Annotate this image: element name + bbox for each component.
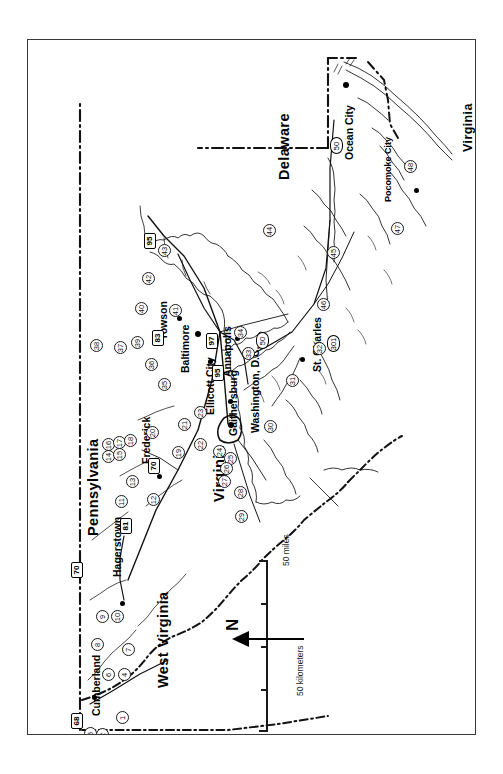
county-circle-5: 5 [84,727,97,734]
creek-e [258,272,270,284]
creek-n [358,330,366,344]
md-va-potomac-border [348,436,402,482]
city-label-ocean-city: Ocean City [344,105,355,160]
county-circle-46: 46 [317,298,330,311]
city-dot-gaithersburg [228,399,233,404]
county-circle-41: 41 [169,304,182,317]
calvert-shore-b [300,380,322,414]
city-dot-towson [177,316,182,321]
city-label-cumberland: Cumberland [91,655,102,716]
county-circle-38: 38 [90,339,103,352]
i83-corridor [178,254,220,332]
county-circle-39: 39 [131,336,144,349]
interstate-shield-70-frederick: 70 [148,458,160,474]
county-circle-36: 36 [145,358,158,371]
atlantic-coastline [344,62,452,154]
interstate-shield-68-number: 68 [73,717,81,726]
county-circle-33: 33 [242,347,255,360]
map-frame: Pennsylvania West Virginia Virginia Dela… [27,39,476,735]
barrier-island [346,70,452,160]
interstate-shield-97: 97 [206,333,218,349]
county-circle-6: 6 [102,668,115,681]
city-dot-ellicott-city [208,359,213,364]
county-circle-29: 29 [235,510,248,523]
inland-bay [358,98,388,120]
us-route-oval-50-bay-bridge-number: 50 [259,336,267,344]
county-circle-23: 23 [194,406,207,419]
interstate-shield-97-number: 97 [208,337,216,346]
county-circle-20: 20 [146,426,159,439]
county-circle-34: 34 [234,326,247,339]
north-arrow-label: N [224,619,241,631]
county-circle-47: 47 [391,222,404,235]
north-arrow-head [232,631,249,647]
state-label-virginia-eastern-shore: Virginia [462,103,475,152]
county-circle-27: 27 [218,475,231,488]
interstate-shield-70-frederick-number: 70 [150,462,158,471]
creek-f [276,290,284,304]
creek-k [368,236,376,250]
county-circle-21: 21 [178,418,191,431]
city-label-washington-dc: Washington, D.C. [250,346,261,433]
map-canvas: Pennsylvania West Virginia Virginia Dela… [28,40,475,734]
county-circle-31: 31 [286,374,299,387]
county-circle-37: 37 [114,341,127,354]
scale-label-kilometers: 50 kilometers [296,645,305,696]
county-circle-45: 45 [327,246,340,259]
va-eastern-shore-border [328,58,398,138]
city-dot-pocomoke-city [414,188,419,193]
city-dot-baltimore [195,331,201,337]
creek-h [318,370,326,384]
va-eastern-shore-coast [390,172,426,226]
state-label-delaware: Delaware [277,113,292,180]
city-dot-washington-dc [228,422,234,428]
scale-tick-4 [261,689,267,691]
interstate-shield-70-west-number: 70 [73,566,81,575]
county-circle-30: 30 [264,420,277,433]
coastal-marsh-hatch [334,58,354,74]
county-circle-32: 32 [313,342,326,355]
interstate-shield-81: 81 [120,518,132,534]
county-circle-8: 8 [91,638,104,651]
us-route-oval-301-number: 301 [330,337,338,350]
creek-i [272,376,280,390]
city-dot-cumberland [92,695,97,700]
creek-g [298,256,306,270]
county-circle-9: 9 [96,610,109,623]
north-arrow-shaft [246,638,304,640]
county-circle-28: 28 [234,486,247,499]
city-dot-ocean-city [343,82,349,88]
interstate-shield-81-number: 81 [122,522,130,531]
county-circle-1: 1 [116,711,129,724]
interstate-shield-83-number: 83 [154,334,162,343]
state-label-west-virginia-text: West Virginia [155,591,171,688]
scale-tick-2 [261,603,267,605]
scale-tick-top [259,560,268,562]
city-dot-frederick [157,474,162,479]
us-route-oval-50-bay-bridge: 50 [256,332,269,349]
county-circle-44: 44 [263,224,276,237]
city-dot-st-charles [300,357,305,362]
creek-l [384,270,392,284]
potomac-mouth [256,496,300,504]
county-circle-18: 18 [124,434,137,447]
county-circle-22: 22 [194,438,207,451]
county-circle-12: 12 [147,493,160,506]
city-label-pocomoke-city-text: Pocomoke City [383,137,393,202]
county-circle-48: 48 [404,160,417,173]
southern-md-peninsula [264,440,296,494]
state-label-pennsylvania: Pennsylvania [86,439,101,537]
interstate-shield-83: 83 [152,330,164,346]
county-circle-2: 2 [96,728,109,734]
us-route-oval-50-ocean-city: 50 [330,137,343,154]
county-circle-42: 42 [142,272,155,285]
city-label-frederick: Frederick [141,417,152,464]
county-circle-11: 11 [115,495,128,508]
north-arrow: N [232,629,310,649]
county-circle-40: 40 [135,302,148,315]
bay-east-shore-upper [228,256,288,322]
interstate-shield-95-baltimore-number: 95 [214,369,222,378]
county-circle-43: 43 [158,244,171,257]
county-circle-10: 10 [111,610,124,623]
calvert-shore [286,400,318,452]
